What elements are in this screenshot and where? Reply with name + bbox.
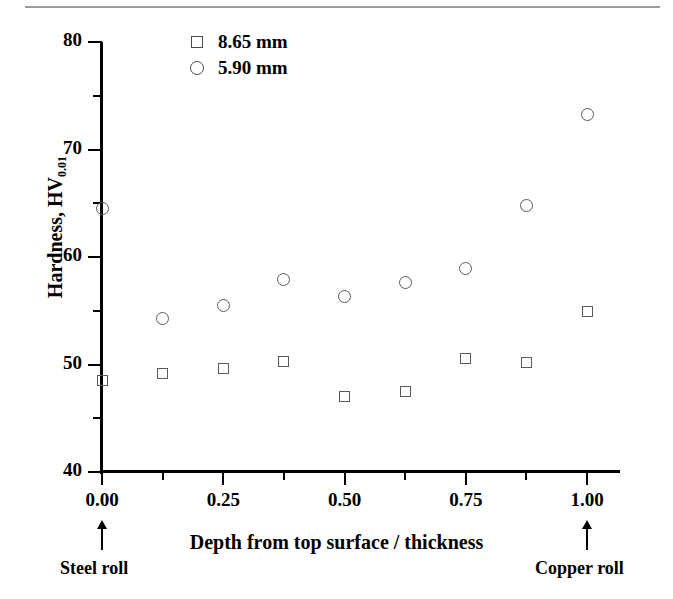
x-axis-minor-tick — [162, 472, 164, 480]
x-axis-minor-tick — [525, 472, 527, 480]
data-point-marker — [157, 368, 168, 379]
x-axis-tick-label: 0.25 — [183, 489, 263, 511]
legend-item-label: 5.90 mm — [218, 57, 288, 79]
data-point-marker — [521, 357, 532, 368]
y-axis-major-tick — [88, 149, 102, 151]
y-axis-title: Hardness, HV0.01 — [44, 102, 70, 352]
y-axis-tick-label: 40 — [36, 459, 82, 481]
data-point-marker — [582, 306, 593, 317]
y-axis-major-tick — [88, 256, 102, 258]
data-point-marker — [338, 290, 351, 303]
data-point-marker — [520, 199, 533, 212]
data-point-marker — [399, 276, 412, 289]
annotation-label: Steel roll — [60, 558, 128, 579]
y-axis-major-tick — [88, 41, 102, 43]
x-axis-tick-label: 1.00 — [547, 489, 627, 511]
legend-item-label: 8.65 mm — [218, 31, 288, 53]
data-point-marker — [97, 375, 108, 386]
top-divider-rule — [25, 6, 660, 8]
x-axis-minor-tick — [283, 472, 285, 480]
x-axis-major-tick — [222, 472, 224, 485]
y-axis-title-main: Hardness, HV — [44, 177, 66, 298]
y-axis-minor-tick — [93, 417, 102, 419]
data-point-marker — [218, 363, 229, 374]
data-point-marker — [460, 353, 471, 364]
square-marker-icon — [176, 36, 218, 48]
data-point-marker — [581, 108, 594, 121]
legend-item-0: 8.65 mm — [176, 30, 288, 54]
annotation-arrow-up-icon — [580, 520, 594, 550]
x-axis-minor-tick — [404, 472, 406, 480]
y-axis-title-subscript: 0.01 — [55, 156, 69, 177]
data-point-marker — [96, 202, 109, 215]
x-axis-tick-label: 0.75 — [426, 489, 506, 511]
y-axis-tick-label: 50 — [36, 352, 82, 374]
data-point-marker — [156, 312, 169, 325]
y-axis-major-tick — [88, 471, 102, 473]
y-axis-minor-tick — [93, 310, 102, 312]
annotation-arrow-up-icon — [95, 520, 109, 550]
legend-item-1: 5.90 mm — [176, 56, 288, 80]
x-axis-tick-label: 0.50 — [305, 489, 385, 511]
y-axis-minor-tick — [93, 95, 102, 97]
y-axis-tick-label: 80 — [36, 29, 82, 51]
circle-marker-icon — [176, 61, 218, 75]
x-axis-major-tick — [344, 472, 346, 485]
x-axis-major-tick — [586, 472, 588, 485]
data-point-marker — [459, 262, 472, 275]
y-axis-major-tick — [88, 364, 102, 366]
x-axis-major-tick — [465, 472, 467, 485]
data-point-marker — [339, 391, 350, 402]
x-axis-tick-label: 0.00 — [62, 489, 142, 511]
data-point-marker — [400, 386, 411, 397]
data-point-marker — [277, 273, 290, 286]
x-axis-major-tick — [101, 472, 103, 485]
annotation-label: Copper roll — [535, 558, 624, 579]
x-axis-line — [100, 470, 620, 473]
chart-legend: 8.65 mm 5.90 mm — [176, 30, 288, 82]
data-point-marker — [278, 356, 289, 367]
data-point-marker — [217, 299, 230, 312]
hardness-depth-scatter-figure: 40506070800.000.250.500.751.00 Hardness,… — [0, 0, 673, 599]
y-axis-line — [100, 42, 103, 474]
